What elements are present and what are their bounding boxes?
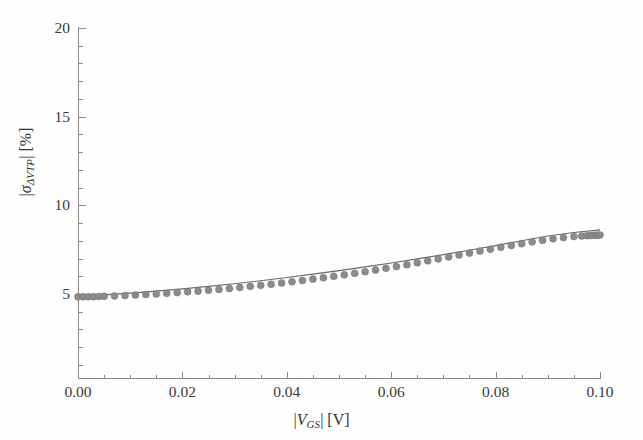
data-point [205,287,212,294]
data-point [257,282,264,289]
y-variable-sigma: σ [17,185,34,193]
y-unit: [%] [17,128,34,152]
data-point [445,253,452,260]
data-point-markers [75,231,604,300]
y-abs-close: | [17,156,34,159]
data-point [497,244,504,251]
data-point [518,240,525,247]
data-point [435,255,442,262]
data-point [132,292,139,299]
data-point [153,291,160,298]
data-point [456,251,463,258]
data-point [111,292,118,299]
data-point [362,268,369,275]
data-layer [0,0,643,440]
model-fit-line [78,230,600,296]
data-point [278,280,285,287]
data-point [597,231,604,238]
data-point [299,277,306,284]
data-point [184,288,191,295]
data-point [268,281,275,288]
data-point [289,278,296,285]
data-point [174,289,181,296]
data-point [550,235,557,242]
y-axis-title-container: |σΔVTP| [%] [15,42,39,282]
data-point [101,293,108,300]
x-abs-close: | [320,411,323,428]
x-variable-subscript: GS [306,418,320,430]
y-axis-title: |σΔVTP| [%] [17,128,36,197]
data-point [529,238,536,245]
data-point [393,263,400,270]
data-point [414,259,421,266]
data-point [560,234,567,241]
x-axis-title: |VGS| [V] [0,411,643,430]
data-point [320,274,327,281]
data-point [487,246,494,253]
data-point [341,271,348,278]
data-point [382,265,389,272]
plot-area: 2015105 0.000.020.040.060.080.10 |σΔVTP|… [0,0,643,440]
y-variable-subscript: ΔVTP [25,159,37,186]
x-variable-v: V [297,411,307,428]
data-point [195,288,202,295]
y-abs-open: | [17,193,34,196]
data-point [142,291,149,298]
data-point [163,290,170,297]
data-point [215,286,222,293]
data-point [236,284,243,291]
data-point [424,257,431,264]
data-point [476,248,483,255]
data-point [351,270,358,277]
data-point [570,233,577,240]
x-unit: [V] [327,411,349,428]
data-point [508,242,515,249]
data-point [372,267,379,274]
data-point [466,250,473,257]
data-point [226,285,233,292]
data-point [403,261,410,268]
data-point [330,273,337,280]
data-point [247,283,254,290]
data-point [121,292,128,299]
figure-canvas: 2015105 0.000.020.040.060.080.10 |σΔVTP|… [0,0,643,440]
data-point [309,276,316,283]
data-point [539,237,546,244]
